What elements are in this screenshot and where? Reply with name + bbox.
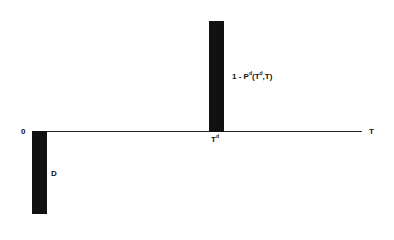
axis-end-label: T <box>369 127 374 136</box>
inflow-time-label: Td <box>211 135 219 144</box>
axis-origin-label: 0 <box>21 127 25 136</box>
outflow-bar <box>32 131 47 214</box>
outflow-amount-label: D <box>51 169 57 178</box>
time-axis <box>32 131 362 132</box>
inflow-amount-label: 1 - Pd(Td,T) <box>232 72 272 81</box>
inflow-bar <box>209 21 224 132</box>
